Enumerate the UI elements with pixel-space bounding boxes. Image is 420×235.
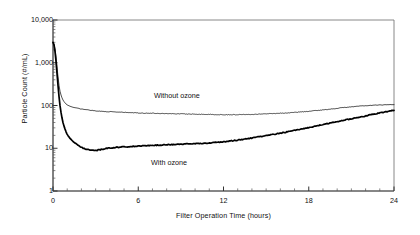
x-tick-label: 6 bbox=[123, 196, 153, 205]
x-tick-label: 0 bbox=[38, 196, 68, 205]
y-axis-title: Particle Count (#/mL) bbox=[20, 29, 29, 149]
x-tick-label: 24 bbox=[379, 196, 409, 205]
chart-figure: 10,0001,000100101 06121824 Particle Coun… bbox=[0, 0, 420, 235]
x-tick-label: 12 bbox=[209, 196, 239, 205]
series-annotation: Without ozone bbox=[154, 91, 200, 100]
x-tick-label: 18 bbox=[294, 196, 324, 205]
x-axis-tick-labels: 06121824 bbox=[0, 0, 420, 235]
x-axis-title: Filter Operation Time (hours) bbox=[53, 211, 394, 220]
series-annotation: With ozone bbox=[151, 158, 187, 167]
